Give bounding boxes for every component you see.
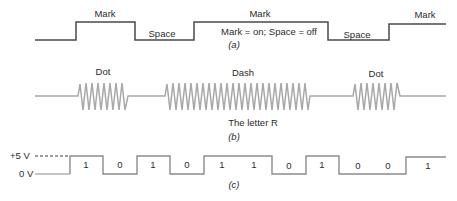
space-label-2: Space — [344, 29, 371, 40]
plus-5v-label: +5 V — [10, 150, 30, 161]
mark-space-legend: Mark = on; Space = off — [221, 26, 317, 37]
mark-label-3: Mark — [414, 9, 435, 20]
space-label-1: Space — [149, 28, 176, 39]
panel-b: Dot Dash Dot The letter R (b) — [35, 66, 446, 142]
bit-8: 1 — [319, 159, 324, 170]
caption-a: (a) — [228, 39, 240, 50]
bit-10: 0 — [385, 160, 390, 171]
dot-label-1: Dot — [96, 66, 111, 77]
zero-v-label: 0 V — [19, 168, 34, 179]
bit-7: 0 — [286, 160, 291, 171]
bit-9: 0 — [355, 160, 360, 171]
bit-6: 1 — [251, 159, 256, 170]
dash-label: Dash — [232, 67, 254, 78]
mark-label-2: Mark — [249, 8, 270, 19]
bit-5: 1 — [219, 159, 224, 170]
bit-3: 1 — [150, 159, 155, 170]
caption-b: (b) — [228, 131, 240, 142]
morse-carrier-waveform — [35, 83, 446, 110]
bit-2: 0 — [117, 159, 122, 170]
caption-c: (c) — [228, 179, 239, 190]
dot-label-2: Dot — [369, 68, 384, 79]
panel-c: +5 V 0 V 1 0 1 0 1 1 0 1 0 0 1 (c) — [10, 150, 446, 190]
signaling-diagram: Mark Space Mark Space Mark Mark = on; Sp… — [0, 0, 457, 201]
mark-label-1: Mark — [94, 8, 115, 19]
panel-a: Mark Space Mark Space Mark Mark = on; Sp… — [35, 8, 446, 50]
bit-11: 1 — [425, 160, 430, 171]
bit-4: 0 — [184, 159, 189, 170]
letter-r-subtitle: The letter R — [228, 117, 278, 128]
bit-1: 1 — [83, 159, 88, 170]
